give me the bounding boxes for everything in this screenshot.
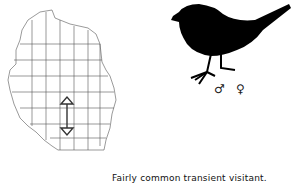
female-symbol: ♀ <box>236 82 245 96</box>
male-symbol: ♂ <box>214 82 225 96</box>
status-caption: Fairly common transient visitant. <box>112 173 267 183</box>
wisconsin-range-map <box>0 0 130 175</box>
bird-silhouette <box>165 0 291 90</box>
